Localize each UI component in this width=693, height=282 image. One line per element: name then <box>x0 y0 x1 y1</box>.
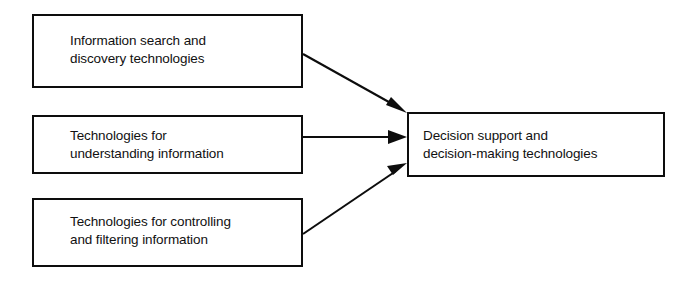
decision-support-box-label: Decision support and decision-making tec… <box>409 127 663 163</box>
arrow-search-to-decision <box>303 54 407 113</box>
arrow-controlling-to-decision <box>303 163 407 234</box>
decision-support-box[interactable]: Decision support and decision-making tec… <box>407 112 665 177</box>
arrow-understanding-to-decision <box>303 130 407 144</box>
information-search-box[interactable]: Information search and discovery technol… <box>32 14 303 88</box>
understanding-information-box[interactable]: Technologies for understanding informati… <box>32 115 303 174</box>
controlling-filtering-box[interactable]: Technologies for controlling and filteri… <box>32 198 303 267</box>
technology-flow-diagram: Information search and discovery technol… <box>0 0 693 282</box>
understanding-information-box-label: Technologies for understanding informati… <box>34 127 301 163</box>
controlling-filtering-box-label: Technologies for controlling and filteri… <box>34 213 301 249</box>
information-search-box-label: Information search and discovery technol… <box>34 32 301 68</box>
